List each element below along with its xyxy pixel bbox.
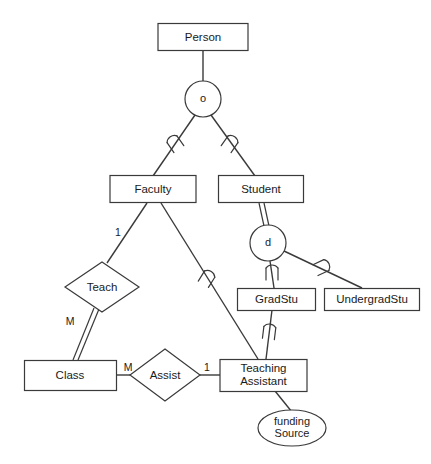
- entity-undergradstu[interactable]: UndergradStu: [325, 289, 420, 311]
- disjoint-circle-label: d: [265, 236, 271, 248]
- entity-class[interactable]: Class: [25, 361, 117, 391]
- entity-teaching-assistant[interactable]: Teaching Assistant: [220, 360, 307, 392]
- relationship-teach[interactable]: Teach: [65, 262, 139, 312]
- entity-gradstu-label: GradStu: [255, 293, 298, 305]
- connector-teach-to-class-a: [73, 308, 94, 360]
- attribute-funding-source-label-line1: funding: [274, 415, 310, 427]
- attribute-funding-source-label-line2: Source: [275, 427, 310, 439]
- connector-student-to-d-circle-b: [264, 203, 269, 226]
- specialization-circle-overlapping[interactable]: o: [185, 81, 221, 117]
- overlapping-circle-label: o: [200, 92, 206, 104]
- entity-class-label: Class: [56, 369, 85, 381]
- entity-teaching-assistant-label-line2: Assistant: [240, 375, 287, 387]
- entity-undergradstu-label: UndergradStu: [336, 293, 408, 305]
- cardinality-faculty-teach: 1: [115, 226, 121, 238]
- er-diagram-svg: Person Faculty Student GradStu Undergrad…: [0, 0, 431, 464]
- connector-gradstu-to-teaching-assistant: [266, 310, 272, 359]
- relationship-assist-label: Assist: [150, 369, 181, 381]
- connector-teaching-assistant-to-funding-source: [275, 391, 292, 412]
- specialization-circle-disjoint[interactable]: d: [250, 225, 286, 261]
- entity-faculty-label: Faculty: [134, 183, 171, 195]
- cardinality-class-assist: M: [124, 361, 133, 373]
- entity-person[interactable]: Person: [158, 24, 248, 51]
- cardinality-assist-teaching-assistant: 1: [204, 361, 210, 373]
- entity-student-label: Student: [241, 183, 281, 195]
- entity-gradstu[interactable]: GradStu: [238, 289, 316, 311]
- entity-student[interactable]: Student: [219, 176, 304, 203]
- relationship-assist[interactable]: Assist: [130, 349, 200, 401]
- entity-faculty[interactable]: Faculty: [110, 176, 196, 203]
- connector-d-circle-to-undergradstu: [284, 251, 362, 288]
- connector-faculty-to-teach: [107, 203, 147, 263]
- connector-faculty-to-teaching-assistant: [161, 203, 258, 359]
- er-diagram-canvas: Person Faculty Student GradStu Undergrad…: [0, 0, 431, 464]
- connector-student-to-d-circle-a: [259, 203, 264, 226]
- connector-circle-to-student: [211, 115, 255, 176]
- entity-person-label: Person: [185, 31, 221, 43]
- entity-teaching-assistant-label-line1: Teaching: [240, 362, 286, 374]
- attribute-funding-source[interactable]: funding Source: [258, 410, 326, 446]
- connector-teach-to-class-b: [78, 309, 99, 360]
- relationship-teach-label: Teach: [87, 281, 118, 293]
- cardinality-class-teach: M: [66, 315, 75, 327]
- connector-circle-to-faculty: [153, 115, 195, 176]
